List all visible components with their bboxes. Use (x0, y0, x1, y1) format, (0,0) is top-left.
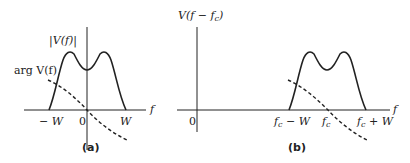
panel-a-axes (24, 27, 146, 150)
panel-a-tick-neg-w: − W (39, 116, 63, 127)
panel-a-tick-w: W (120, 116, 131, 127)
panel-b-tick-fc-minus-w: fc − W (274, 116, 310, 129)
panel-a-tick-zero: 0 (79, 116, 86, 127)
panel-b-magnitude-curve (289, 52, 366, 110)
diagram-graphics (0, 0, 410, 163)
panel-b-tick-fc: fc (322, 116, 331, 129)
panel-b-x-axis-label: f (393, 104, 397, 115)
panel-b-tick-fc-plus-w: fc + W (357, 116, 393, 129)
panel-a-phase-label: arg V(f) (14, 65, 57, 76)
panel-b-y-axis-label: V(f − fc) (178, 10, 223, 23)
panel-a-magnitude-label: |V(f)| (49, 35, 77, 46)
panel-a-caption: (a) (82, 142, 99, 153)
panel-a-x-axis-label: f (150, 104, 154, 115)
panel-b-origin-label: 0 (189, 116, 196, 127)
panel-b-caption: (b) (288, 142, 306, 153)
frequency-shift-diagram: |V(f)| arg V(f) f − W 0 W (a) V(f − fc) … (0, 0, 410, 163)
